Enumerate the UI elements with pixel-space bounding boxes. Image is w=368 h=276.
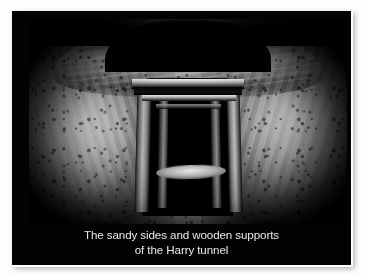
- timber-lintel-middle: [142, 95, 236, 101]
- timber-lintel-outer-shadow: [134, 87, 242, 94]
- tunnel-photograph: [29, 19, 347, 224]
- photo-bottom-shadow: [29, 19, 347, 46]
- timber-post-inner-left: [157, 93, 169, 208]
- timber-lintel-inner: [156, 104, 221, 109]
- figure-root: The sandy sides and wooden supports of t…: [0, 0, 368, 276]
- caption-line-2: of the Harry tunnel: [12, 242, 351, 257]
- timber-post-inner-right: [210, 93, 222, 208]
- caption-line-1: The sandy sides and wooden supports: [12, 227, 351, 242]
- photo-caption: The sandy sides and wooden supports of t…: [12, 227, 351, 257]
- photo-card: The sandy sides and wooden supports of t…: [12, 11, 351, 265]
